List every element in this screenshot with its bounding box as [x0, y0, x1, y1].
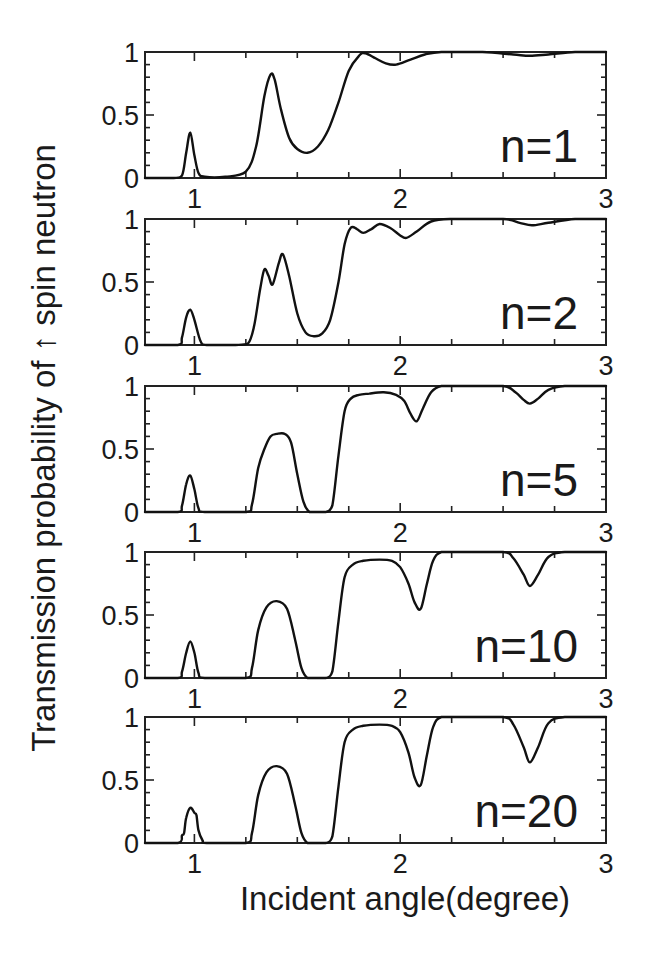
- y-tick-label: 1: [124, 205, 139, 235]
- panel-label: n=10: [474, 620, 578, 672]
- x-tick-label: 2: [393, 684, 408, 714]
- y-tick-label: 1: [124, 38, 139, 68]
- panel-label: n=20: [474, 785, 578, 837]
- x-tick-label: 2: [393, 849, 408, 879]
- x-tick-label: 1: [187, 518, 202, 548]
- y-tick-label: 0: [124, 829, 139, 859]
- y-tick-label: 0.5: [101, 435, 139, 465]
- x-tick-label: 3: [598, 849, 613, 879]
- panel-n-5: 00.51123n=5: [101, 372, 613, 548]
- y-tick-label: 1: [124, 372, 139, 402]
- panel-n-1: 00.51123n=1: [101, 38, 613, 214]
- y-tick-label: 0: [124, 164, 139, 194]
- panel-label: n=1: [500, 120, 578, 172]
- y-tick-label: 0: [124, 664, 139, 694]
- panel-n-10: 00.51123n=10: [101, 538, 613, 714]
- panels-group: 00.51123n=100.51123n=200.51123n=500.5112…: [101, 38, 613, 879]
- x-tick-label: 3: [598, 518, 613, 548]
- figure-canvas: 00.51123n=100.51123n=200.51123n=500.5112…: [0, 0, 653, 958]
- panel-label: n=5: [500, 454, 578, 506]
- x-axis-title: Incident angle(degree): [240, 880, 570, 917]
- x-tick-label: 1: [187, 849, 202, 879]
- y-tick-label: 0.5: [101, 101, 139, 131]
- x-tick-label: 2: [393, 518, 408, 548]
- x-tick-label: 3: [598, 184, 613, 214]
- panel-n-2: 00.51123n=2: [101, 205, 613, 381]
- y-tick-label: 0: [124, 498, 139, 528]
- x-tick-label: 2: [393, 184, 408, 214]
- x-tick-label: 3: [598, 684, 613, 714]
- y-tick-label: 1: [124, 703, 139, 733]
- x-tick-label: 2: [393, 351, 408, 381]
- y-tick-label: 0.5: [101, 268, 139, 298]
- panel-label: n=2: [500, 287, 578, 339]
- x-tick-label: 1: [187, 351, 202, 381]
- y-tick-label: 0.5: [101, 766, 139, 796]
- panel-n-20: 00.51123n=20: [101, 703, 613, 879]
- x-tick-label: 1: [187, 684, 202, 714]
- y-tick-label: 0: [124, 331, 139, 361]
- y-axis-title: Transmission probability of ↑ spin neutr…: [25, 144, 62, 752]
- y-tick-label: 0.5: [101, 601, 139, 631]
- x-tick-label: 1: [187, 184, 202, 214]
- y-tick-label: 1: [124, 538, 139, 568]
- x-tick-label: 3: [598, 351, 613, 381]
